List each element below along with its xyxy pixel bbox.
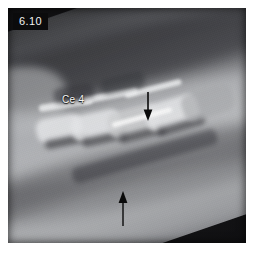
figure-page: 6.10 Ce 4 [0, 0, 254, 253]
annotation-arrow-up-icon [116, 190, 130, 226]
vertebra-annotation-label: Ce 4 [62, 94, 84, 105]
radiograph-plate: 6.10 Ce 4 [8, 8, 246, 243]
annotation-arrow-down-icon [141, 92, 155, 122]
figure-number-label: 6.10 [13, 13, 48, 30]
